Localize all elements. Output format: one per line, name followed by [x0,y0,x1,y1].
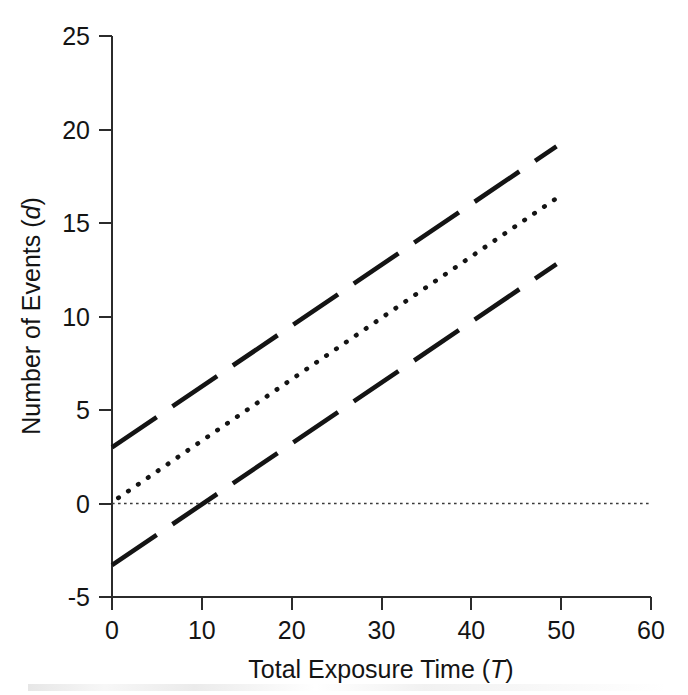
x-tick-label-10: 10 [188,616,216,644]
y-axis-title: Number of Events (d) [17,197,45,435]
y-axis-title-symbol: d [17,204,45,219]
y-axis-title-close: ) [17,197,45,205]
y-tick-label-25: 25 [62,22,90,50]
x-tick-label-50: 50 [547,616,575,644]
y-tick-label-20: 20 [62,116,90,144]
x-tick-label-60: 60 [637,616,665,644]
x-tick-label-0: 0 [105,616,119,644]
y-tick-label-5: 5 [76,396,90,424]
y-tick-label-15: 15 [62,209,90,237]
x-tick-label-40: 40 [457,616,485,644]
x-tick-label-30: 30 [368,616,396,644]
x-axis-title-text: Total Exposure Time ( [248,655,490,683]
y-axis-title-text: Number of Events ( [17,219,45,435]
x-axis-title-close: ) [505,655,513,683]
events-vs-exposure-time-chart: 25 20 15 10 5 0 -5 0 10 20 30 40 50 60 T… [0,0,688,695]
x-axis-title: Total Exposure Time (T) [248,655,513,683]
x-tick-label-20: 20 [278,616,306,644]
y-tick-label-10: 10 [62,303,90,331]
y-tick-label-0: 0 [76,490,90,518]
chart-background [0,0,688,695]
y-tick-label-minus5: -5 [68,583,90,611]
